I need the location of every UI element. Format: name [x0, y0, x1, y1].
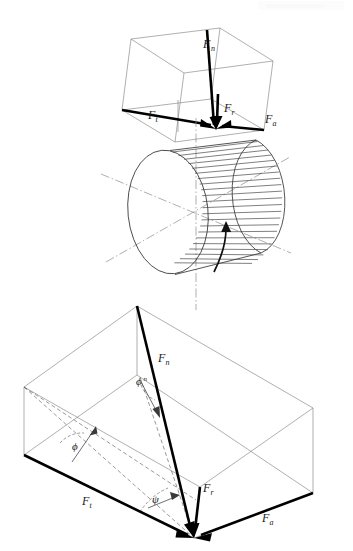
figure-root: F n F t F r F a — [0, 0, 353, 551]
label-pressure-angle: ϕ — [72, 440, 78, 452]
label-fa-top-sub: a — [273, 119, 277, 128]
label-fn-bottom-sub: n — [166, 358, 170, 367]
label-normal-pressure-angle: ϕ — [136, 375, 142, 387]
label-normal-pressure-angle-sup: n — [144, 375, 148, 383]
label-fa-bottom-sub: a — [270, 518, 274, 527]
label-fn-top-sub: n — [211, 44, 215, 53]
label-fn-top: F — [202, 37, 211, 51]
scan-watermark — [258, 1, 344, 10]
gear-force-diagram: F n F t F r F a — [0, 0, 353, 551]
label-helix-angle: ψ — [152, 493, 159, 505]
